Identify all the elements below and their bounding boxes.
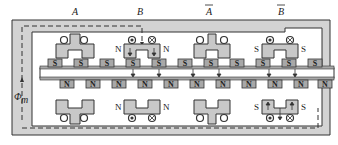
tooth-label: N — [322, 80, 328, 89]
polarity-label: S — [254, 102, 259, 112]
tooth-label: S — [183, 59, 188, 68]
tooth-label: S — [209, 59, 214, 68]
polarity-label: S — [301, 102, 306, 112]
phase-labels: A B A B — [71, 5, 285, 17]
phase-label-b: B — [137, 6, 143, 17]
polarity-label: S — [254, 44, 259, 54]
mover — [40, 66, 334, 80]
coil-dot-icon — [61, 37, 68, 44]
tooth-label: N — [298, 80, 304, 89]
polarity-label: N — [115, 44, 122, 54]
tooth-label: N — [246, 80, 252, 89]
tooth-label: S — [313, 59, 318, 68]
tooth-label: S — [261, 59, 266, 68]
phase-label-a-bar: A — [205, 6, 213, 17]
tooth-label: S — [79, 59, 84, 68]
tooth-label: N — [64, 80, 70, 89]
tooth-label: N — [194, 80, 200, 89]
coil-dot-icon — [81, 37, 88, 44]
coil-dot-icon — [197, 37, 204, 44]
phase-label-a: A — [71, 6, 79, 17]
coil-dot-icon — [221, 37, 228, 44]
polarity-label: N — [163, 102, 170, 112]
linear-motor-diagram: Φ m A B A B — [0, 0, 338, 145]
tooth-label: N — [272, 80, 278, 89]
polarity-label: N — [163, 44, 170, 54]
tooth-label: N — [90, 80, 96, 89]
tooth-label: N — [220, 80, 226, 89]
tooth-label: S — [157, 59, 162, 68]
tooth-label: N — [168, 80, 174, 89]
tooth-label: S — [53, 59, 58, 68]
tooth-label: N — [116, 80, 122, 89]
phase-label-b-bar: B — [278, 6, 284, 17]
tooth-label: S — [105, 59, 110, 68]
flux-subscript: m — [21, 94, 28, 105]
tooth-label: S — [131, 59, 136, 68]
tooth-label: N — [142, 80, 148, 89]
tooth-label: S — [235, 59, 240, 68]
polarity-label: N — [115, 102, 122, 112]
polarity-label: S — [301, 44, 306, 54]
mover-core — [40, 68, 334, 78]
tooth-label: S — [287, 59, 292, 68]
